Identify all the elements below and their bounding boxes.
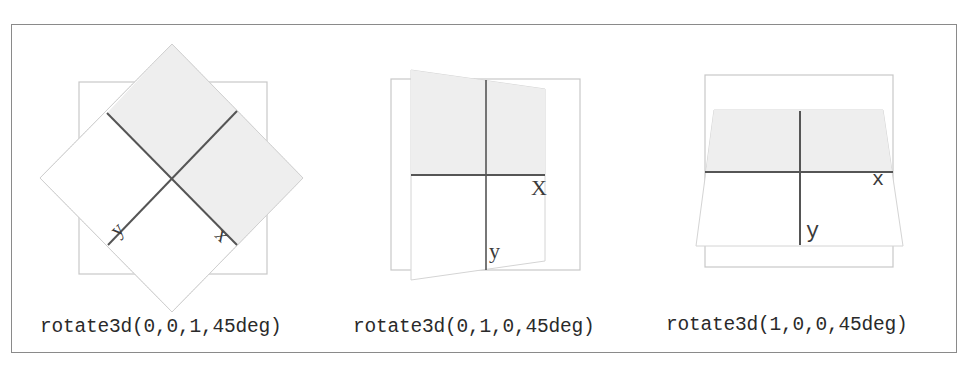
x-axis-label: x	[872, 168, 884, 191]
panel-rotate-x: x y	[696, 75, 903, 267]
panel-rotate-y: X y	[391, 70, 580, 280]
y-axis-label: y	[489, 238, 500, 263]
panel-rotate-z: y x	[40, 44, 303, 312]
caption-rotate-y: rotate3d(0,1,0,45deg)	[353, 316, 595, 338]
caption-rotate-z: rotate3d(0,0,1,45deg)	[40, 316, 282, 338]
y-axis-label: y	[806, 219, 819, 244]
x-axis-label: X	[531, 175, 547, 200]
caption-rotate-x: rotate3d(1,0,0,45deg)	[666, 314, 908, 336]
